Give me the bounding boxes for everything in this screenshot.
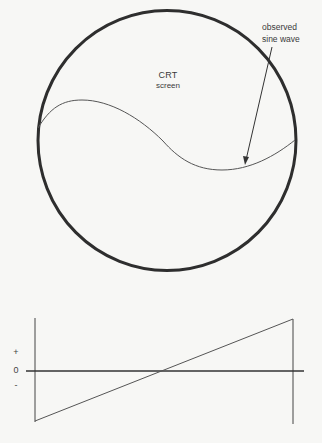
crt-label-line1: CRT	[150, 71, 186, 80]
crt-diagram	[0, 0, 322, 443]
tick-minus-label: -	[11, 381, 21, 390]
observed-label-line2: sine wave	[262, 35, 300, 44]
observed-sine-wave	[38, 100, 295, 170]
annotation-arrowhead	[243, 156, 249, 165]
crt-label-line2: screen	[150, 82, 186, 90]
observed-sine-wave-label: observed sine wave	[262, 23, 300, 46]
sweep-ramp	[35, 319, 293, 421]
observed-label-line1: observed	[262, 23, 300, 32]
crt-screen-circle	[38, 11, 296, 271]
crt-screen-label: CRT screen	[150, 71, 186, 90]
tick-zero-label: 0	[11, 366, 21, 375]
annotation-arrow-line	[246, 47, 272, 160]
tick-plus-label: +	[11, 348, 21, 357]
